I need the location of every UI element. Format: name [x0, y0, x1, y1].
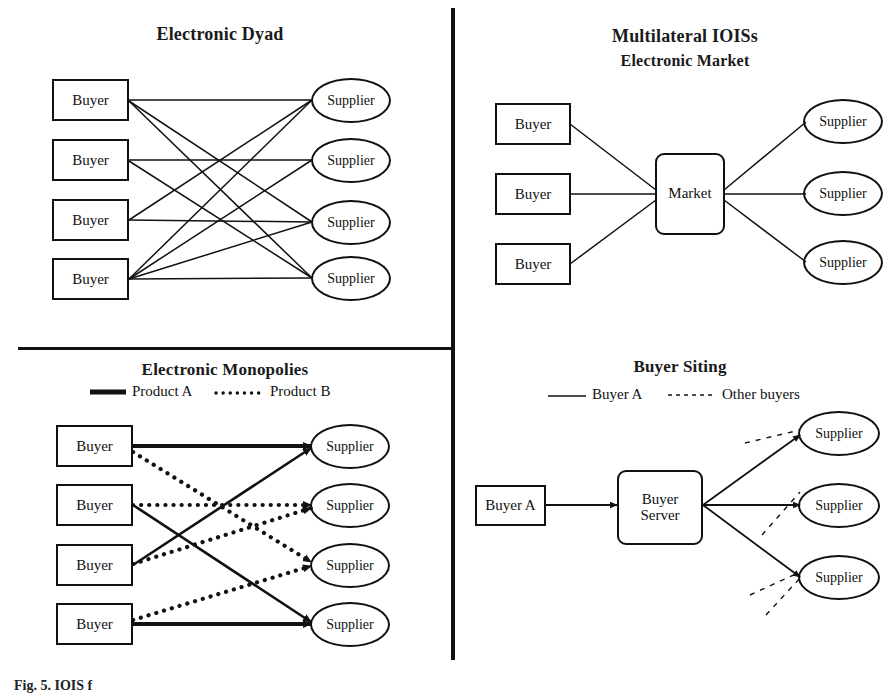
monopolies-buyer-4[interactable]: Buyer: [56, 603, 133, 645]
market-buyer-1[interactable]: Buyer: [495, 103, 571, 145]
node-label: Supplier: [815, 426, 862, 442]
legend-product-a-label: Product A: [132, 383, 192, 400]
node-label: Buyer: [76, 497, 113, 514]
electronic-monopolies-title: Electronic Monopolies: [100, 360, 350, 380]
buyer-siting-supplier-2[interactable]: Supplier: [798, 483, 880, 528]
market-supplier-2[interactable]: Supplier: [803, 171, 883, 216]
monopolies-product-a-diagonals: [133, 448, 311, 622]
node-label: Buyer: [72, 271, 109, 288]
electronic-dyad-title: Electronic Dyad: [110, 24, 330, 45]
node-label: Market: [668, 186, 711, 202]
node-label: Supplier: [326, 558, 373, 574]
monopolies-product-b-edges: [133, 452, 311, 620]
dyad-supplier-4[interactable]: Supplier: [311, 256, 391, 301]
dyad-buyer-1[interactable]: Buyer: [52, 79, 129, 121]
node-label: Supplier: [327, 153, 374, 169]
node-label: Buyer: [515, 116, 552, 133]
node-label: Buyer: [76, 616, 113, 633]
figure-caption: Fig. 5. IOIS f: [14, 678, 92, 694]
node-label: Supplier: [327, 271, 374, 287]
node-label: Buyer A: [485, 497, 535, 514]
node-label: Supplier: [326, 617, 373, 633]
node-label: Supplier: [327, 93, 374, 109]
market-buyer-3[interactable]: Buyer: [495, 243, 571, 285]
figure-canvas: Electronic Dyad Buyer Buyer Buyer Buyer …: [0, 0, 888, 699]
node-label: Buyer: [76, 438, 113, 455]
node-label: Supplier: [819, 186, 866, 202]
market-supplier-1[interactable]: Supplier: [803, 99, 883, 144]
dyad-buyer-3[interactable]: Buyer: [52, 199, 129, 241]
monopolies-buyer-3[interactable]: Buyer: [56, 544, 133, 586]
node-label: Buyer: [515, 186, 552, 203]
node-label: Supplier: [327, 215, 374, 231]
buyer-siting-supplier-1[interactable]: Supplier: [798, 411, 880, 456]
monopolies-supplier-1[interactable]: Supplier: [310, 424, 390, 469]
market-supplier-3[interactable]: Supplier: [803, 240, 883, 285]
legend-other-buyers-label: Other buyers: [722, 386, 800, 403]
dyad-supplier-3[interactable]: Supplier: [311, 200, 391, 245]
legend-product-b-label: Product B: [270, 383, 330, 400]
dyad-supplier-1[interactable]: Supplier: [311, 78, 391, 123]
buyer-siting-other-buyer-edges: [745, 430, 800, 615]
monopolies-supplier-3[interactable]: Supplier: [310, 543, 390, 588]
node-label: Supplier: [815, 498, 862, 514]
node-label: Supplier: [326, 439, 373, 455]
node-label: Supplier: [819, 255, 866, 271]
monopolies-buyer-1[interactable]: Buyer: [56, 425, 133, 467]
monopolies-supplier-2[interactable]: Supplier: [310, 483, 390, 528]
monopolies-supplier-4[interactable]: Supplier: [310, 602, 390, 647]
buyer-siting-buyer-a[interactable]: Buyer A: [475, 485, 546, 526]
legend-buyer-a-label: Buyer A: [592, 386, 642, 403]
node-label-line1: Buyer: [642, 492, 679, 508]
node-label: Supplier: [819, 114, 866, 130]
monopolies-buyer-2[interactable]: Buyer: [56, 484, 133, 526]
market-hub[interactable]: Market: [655, 153, 725, 235]
market-buyer-2[interactable]: Buyer: [495, 173, 571, 215]
dyad-supplier-2[interactable]: Supplier: [311, 138, 391, 183]
node-label-line2: Server: [640, 508, 679, 524]
buyer-siting-server[interactable]: Buyer Server: [617, 470, 703, 545]
node-label: Buyer: [515, 256, 552, 273]
connector-lines: [0, 0, 888, 699]
node-label: Buyer: [76, 557, 113, 574]
node-label: Buyer: [72, 152, 109, 169]
multilateral-iois-title: Multilateral IOISs: [560, 26, 810, 47]
dyad-buyer-4[interactable]: Buyer: [52, 258, 129, 300]
node-label: Supplier: [326, 498, 373, 514]
node-label: Buyer: [72, 212, 109, 229]
node-label: Buyer: [72, 92, 109, 109]
buyer-siting-supplier-3[interactable]: Supplier: [798, 555, 880, 600]
dyad-buyer-2[interactable]: Buyer: [52, 139, 129, 181]
buyer-siting-title: Buyer Siting: [570, 357, 790, 377]
monopolies-product-a-edges: [133, 446, 311, 624]
electronic-market-subtitle: Electronic Market: [560, 52, 810, 70]
dyad-edges: [129, 100, 312, 279]
node-label: Supplier: [815, 570, 862, 586]
